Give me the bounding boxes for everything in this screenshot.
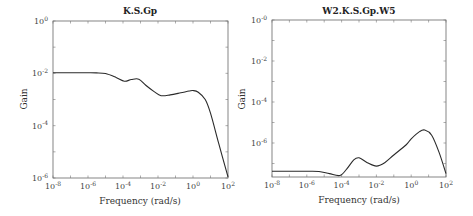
x-tick-label: 10-2 <box>150 180 166 192</box>
right-x-axis-label: Frequency (rad/s) <box>318 195 400 205</box>
x-tick-label: 10-2 <box>368 179 384 191</box>
right-chart: W2.K.S.Gp.W5 Gain Frequency (rad/s) 10-8… <box>237 6 453 205</box>
y-tick-label: 10-2 <box>251 55 267 67</box>
x-tick-label: 102 <box>439 179 453 191</box>
x-tick-label: 102 <box>221 180 235 192</box>
y-tick-label: 10-4 <box>32 119 48 131</box>
left-chart-title: K.S.Gp <box>123 6 157 16</box>
right-chart-title: W2.K.S.Gp.W5 <box>321 6 395 16</box>
right-y-axis-label: Gain <box>237 88 247 109</box>
left-ticks <box>53 21 228 178</box>
left-plot-frame <box>53 21 228 178</box>
x-tick-label: 10-8 <box>45 180 61 192</box>
x-tick-label: 10-6 <box>299 179 315 191</box>
right-x-tick-labels: 10-810-610-410-2100102 <box>264 179 453 191</box>
right-gain-curve <box>272 130 446 176</box>
figure: K.S.Gp Gain Frequency (rad/s) 10-810-610… <box>0 0 473 216</box>
right-y-tick-labels: 10-010-210-410-6 <box>251 14 267 149</box>
y-tick-label: 10-0 <box>251 14 267 26</box>
left-gain-curve <box>53 73 228 177</box>
y-tick-label: 10-6 <box>251 137 267 149</box>
x-tick-label: 10-4 <box>334 179 350 191</box>
left-chart: K.S.Gp Gain Frequency (rad/s) 10-810-610… <box>19 6 235 206</box>
x-tick-label: 10-8 <box>264 179 280 191</box>
x-tick-label: 10-4 <box>115 180 131 192</box>
x-tick-label: 100 <box>404 179 418 191</box>
right-ticks <box>272 20 446 177</box>
y-tick-label: 100 <box>34 15 48 27</box>
y-tick-label: 10-4 <box>251 96 267 108</box>
right-plot-frame <box>272 20 446 177</box>
left-y-tick-labels: 10010-210-410-6 <box>32 15 48 184</box>
left-x-axis-label: Frequency (rad/s) <box>99 196 181 206</box>
x-tick-label: 100 <box>186 180 200 192</box>
x-tick-label: 10-6 <box>80 180 96 192</box>
left-y-axis-label: Gain <box>19 88 29 109</box>
y-tick-label: 10-2 <box>32 67 48 79</box>
left-x-tick-labels: 10-810-610-410-2100102 <box>45 180 235 192</box>
